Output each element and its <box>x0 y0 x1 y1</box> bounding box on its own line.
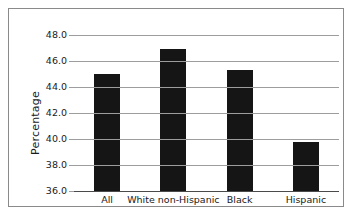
y-axis-tick-mark <box>69 165 74 166</box>
y-axis-tick-label: 42.0 <box>46 108 67 118</box>
gridline <box>74 61 339 62</box>
gridline <box>74 87 339 88</box>
bar <box>160 49 186 191</box>
gridline <box>74 35 339 36</box>
y-axis-tick-mark <box>69 35 74 36</box>
y-axis-tick-label: 48.0 <box>46 30 67 40</box>
plot-area: 48.046.044.042.040.038.036.0 <box>74 35 339 191</box>
y-axis-tick-label: 44.0 <box>46 82 67 92</box>
gridline <box>74 191 339 192</box>
gridline <box>74 139 339 140</box>
y-axis-tick-mark <box>69 61 74 62</box>
x-axis-tick-label: White non-Hispanic <box>127 195 219 205</box>
chart-frame: Percentage 48.046.044.042.040.038.036.0 … <box>8 8 344 207</box>
gridline <box>74 165 339 166</box>
y-axis-tick-label: 36.0 <box>46 186 67 196</box>
gridline <box>74 113 339 114</box>
x-axis-tick-labels: AllWhite non-HispanicBlackHispanic <box>74 195 339 211</box>
figure-container: Percentage 48.046.044.042.040.038.036.0 … <box>0 0 355 218</box>
figure-caption <box>10 211 350 218</box>
x-axis-tick-label: Hispanic <box>286 195 326 205</box>
y-axis-tick-mark <box>69 139 74 140</box>
bar <box>227 70 253 191</box>
x-axis-tick-label: Black <box>227 195 253 205</box>
y-axis-tick-mark <box>69 191 74 192</box>
y-axis-tick-label: 46.0 <box>46 56 67 66</box>
y-axis-tick-mark <box>69 113 74 114</box>
bar <box>293 142 319 191</box>
y-axis-tick-label: 38.0 <box>46 160 67 170</box>
y-axis-tick-label: 40.0 <box>46 134 67 144</box>
y-axis-tick-mark <box>69 87 74 88</box>
bar <box>94 74 120 191</box>
x-axis-tick-label: All <box>101 195 113 205</box>
